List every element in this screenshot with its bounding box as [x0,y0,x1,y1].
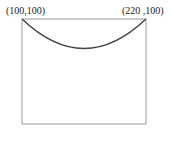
arc-curve [22,19,146,49]
diagram-canvas [0,0,171,142]
